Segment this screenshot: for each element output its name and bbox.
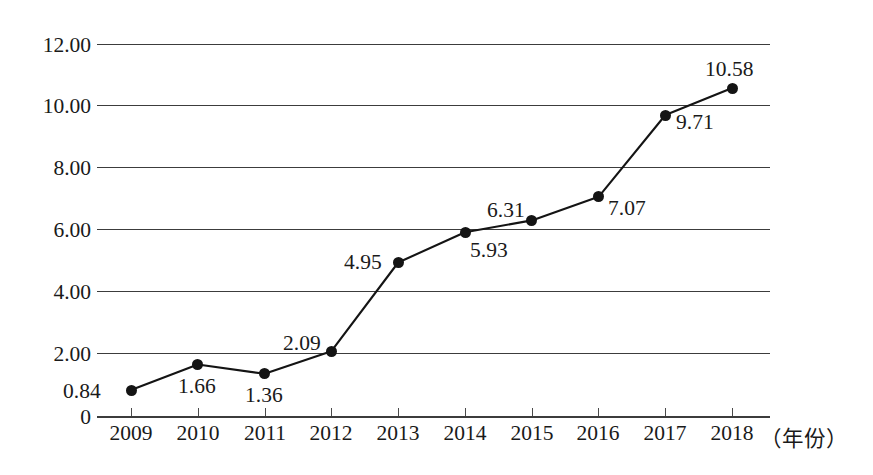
line-chart: 12.00 10.00 8.00 6.00 4.00 2.00 0 2009 2…: [0, 0, 873, 475]
data-label-2015: 6.31: [487, 200, 525, 222]
data-point-2009[interactable]: [126, 385, 137, 396]
data-point-2012[interactable]: [326, 346, 337, 357]
data-label-2013: 4.95: [344, 252, 382, 274]
data-point-2014[interactable]: [460, 227, 471, 238]
data-point-2017[interactable]: [660, 110, 671, 121]
data-point-2013[interactable]: [393, 257, 404, 268]
data-label-2016: 7.07: [608, 198, 646, 220]
data-label-2012: 2.09: [283, 333, 321, 355]
data-label-2010: 1.66: [178, 376, 216, 398]
data-label-2018: 10.58: [705, 59, 753, 81]
data-label-2017: 9.71: [676, 112, 714, 134]
data-point-2018[interactable]: [727, 83, 738, 94]
data-label-2011: 1.36: [245, 385, 283, 407]
data-label-2014: 5.93: [470, 240, 508, 262]
series-polyline: [131, 88, 732, 390]
data-label-2009: 0.84: [63, 381, 101, 403]
